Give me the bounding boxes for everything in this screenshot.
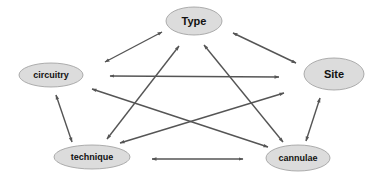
- node-label: Type: [182, 15, 207, 27]
- node-label: Site: [324, 68, 344, 80]
- node-technique: technique: [54, 145, 130, 169]
- edge-type-site: [233, 33, 296, 63]
- edge-technique-site: [120, 93, 284, 143]
- edge-type-cannulae: [204, 45, 283, 142]
- node-label: technique: [71, 152, 114, 162]
- edge-circuitry-technique: [56, 95, 72, 142]
- node-circuitry: circuitry: [19, 63, 83, 87]
- node-label: cannulae: [278, 153, 317, 163]
- node-site: Site: [304, 58, 364, 90]
- edge-circuitry-type: [105, 32, 162, 62]
- edge-type-technique: [107, 46, 179, 139]
- node-type: Type: [166, 7, 222, 35]
- node-label: circuitry: [33, 70, 69, 80]
- edge-circuitry-cannulae: [92, 89, 268, 147]
- edges-layer: [56, 32, 320, 159]
- relationship-diagram: TypecircuitrySitetechniquecannulae: [0, 0, 381, 180]
- node-cannulae: cannulae: [266, 145, 330, 171]
- edge-circuitry-site: [110, 76, 279, 77]
- nodes-layer: TypecircuitrySitetechniquecannulae: [19, 7, 364, 171]
- edge-site-cannulae: [306, 98, 320, 141]
